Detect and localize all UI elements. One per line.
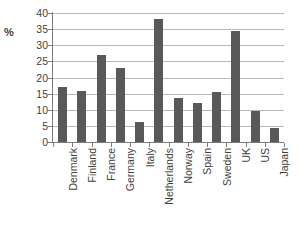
bar [231, 31, 240, 142]
x-axis-tick-label: Norway [182, 148, 194, 184]
x-axis-tick-label: Germany [124, 148, 136, 191]
x-axis-tick-mark [169, 143, 170, 147]
y-axis-tick-mark [48, 94, 52, 95]
x-axis-tick-mark [130, 143, 131, 147]
bar [135, 122, 144, 142]
bar [116, 68, 125, 142]
y-axis-tick-mark [48, 29, 52, 30]
bar [270, 128, 279, 143]
y-axis-tick-mark [48, 110, 52, 111]
y-axis-unit-label: % [4, 26, 14, 38]
x-axis-tick-mark [265, 143, 266, 147]
gridline [53, 94, 284, 95]
bar [193, 103, 202, 142]
x-axis-tick-label: France [105, 148, 117, 181]
x-axis-tick-label: Netherlands [163, 148, 175, 205]
x-axis-tick-label: UK [240, 148, 252, 163]
x-axis-tick-mark [111, 143, 112, 147]
y-axis-tick-mark [48, 45, 52, 46]
y-axis-tick-label: 20 [26, 72, 48, 84]
x-axis-tick-mark [149, 143, 150, 147]
y-axis-tick-mark [48, 142, 52, 143]
y-axis-tick-label: 35 [26, 23, 48, 35]
y-axis-tick-mark [48, 13, 52, 14]
x-axis-tick-mark [188, 143, 189, 147]
x-axis-tick-label: Sweden [221, 148, 233, 186]
gridline [53, 29, 284, 30]
bar [174, 98, 183, 142]
x-axis-tick-label: Spain [201, 148, 213, 175]
y-axis-tick-label: 25 [26, 55, 48, 67]
x-axis-tick-mark [226, 143, 227, 147]
bar [77, 91, 86, 142]
plot-area [53, 13, 284, 142]
gridline [53, 110, 284, 111]
gridline [53, 78, 284, 79]
bar [154, 19, 163, 142]
gridline [53, 45, 284, 46]
y-axis-tick-mark [48, 78, 52, 79]
y-axis-tick-label: 30 [26, 39, 48, 51]
y-axis-tick-label: 40 [26, 7, 48, 19]
y-axis-tick-label: 0 [26, 136, 48, 148]
x-axis-tick-mark [92, 143, 93, 147]
gridline [53, 126, 284, 127]
y-axis-tick-mark [48, 126, 52, 127]
bar [58, 87, 67, 142]
y-axis-tick-label: 10 [26, 104, 48, 116]
x-axis-tick-label: US [259, 148, 271, 163]
bar [212, 92, 221, 142]
y-axis-tick-label: 15 [26, 88, 48, 100]
bar-chart-figure: % 0510152025303540 DenmarkFinlandFranceG… [0, 0, 301, 232]
x-axis-tick-mark [207, 143, 208, 147]
x-axis-tick-mark [246, 143, 247, 147]
x-axis-tick-label: Italy [144, 148, 156, 167]
x-axis-tick-label: Denmark [67, 148, 79, 191]
y-axis-tick-label: 5 [26, 120, 48, 132]
x-axis-tick-mark [72, 143, 73, 147]
x-axis-tick-label: Japan [278, 148, 290, 177]
x-axis-tick-mark [53, 143, 54, 147]
gridline [53, 13, 284, 14]
x-axis-tick-label: Finland [86, 148, 98, 182]
x-axis-tick-mark [284, 143, 285, 147]
bar [97, 55, 106, 142]
gridline [53, 61, 284, 62]
y-axis-tick-mark [48, 61, 52, 62]
bar [251, 111, 260, 142]
